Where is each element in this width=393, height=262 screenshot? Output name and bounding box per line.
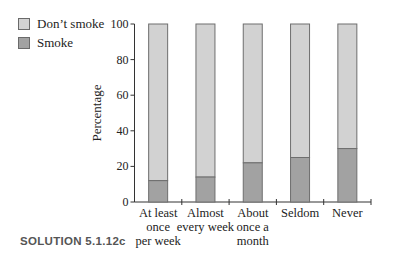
x-category-label: Seldom <box>281 206 319 220</box>
figure-caption: SOLUTION 5.1.12c <box>20 235 126 247</box>
bar-segment-smoke <box>149 181 168 202</box>
bar-segment-smoke <box>196 177 215 202</box>
y-tick-label: 0 <box>123 195 129 209</box>
y-axis-title: Percentage <box>89 84 104 141</box>
bar-group <box>149 24 168 202</box>
x-category-label: Aboutonce amonth <box>237 206 270 248</box>
y-tick-label: 20 <box>117 159 129 173</box>
bar-group <box>196 24 215 202</box>
x-category-label: Almostevery week <box>177 206 235 234</box>
bar-group <box>338 24 357 202</box>
x-category-label: Never <box>332 206 363 220</box>
bar-segment-dont-smoke <box>149 24 168 181</box>
bar-segment-dont-smoke <box>291 24 310 158</box>
y-tick-label: 60 <box>117 88 129 102</box>
bar-segment-dont-smoke <box>196 24 215 177</box>
y-tick-label: 100 <box>111 17 129 31</box>
bar-segment-dont-smoke <box>338 24 357 149</box>
y-tick-label: 80 <box>117 53 129 67</box>
bar-segment-dont-smoke <box>243 24 262 163</box>
bar-segment-smoke <box>291 158 310 203</box>
y-tick-label: 40 <box>117 124 129 138</box>
bar-group <box>243 24 262 202</box>
x-category-label: At leastonceper week <box>135 206 181 248</box>
bar-segment-smoke <box>338 149 357 202</box>
bar-group <box>291 24 310 202</box>
bar-segment-smoke <box>243 163 262 202</box>
stacked-bar-chart: 020406080100PercentageAt leastonceper we… <box>0 0 393 262</box>
